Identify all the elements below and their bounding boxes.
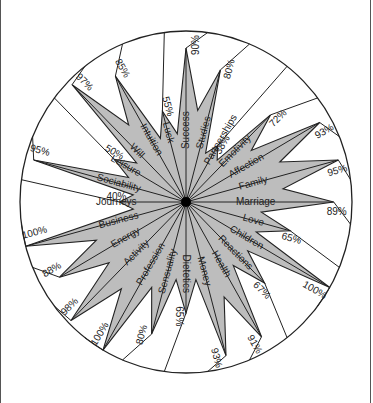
percent-label-success: 90% bbox=[190, 35, 201, 55]
percent-label-health: 91% bbox=[245, 333, 265, 356]
percent-label-dietetics: 65% bbox=[174, 306, 185, 326]
percent-label-sensuality: 80% bbox=[133, 323, 149, 345]
percent-label-journeys: 40% bbox=[106, 191, 126, 202]
chart-frame: SuccessStudiesPartnershipsEmotivityAffec… bbox=[0, 0, 373, 403]
percent-label-children: 100% bbox=[301, 278, 329, 300]
percent-label-money: 93% bbox=[209, 347, 225, 369]
percent-label-sociability: 95% bbox=[29, 142, 51, 158]
percent-label-marriage: 89% bbox=[327, 206, 347, 217]
percent-label-studies: 80% bbox=[221, 58, 237, 80]
category-label-marriage: Marriage bbox=[236, 196, 276, 207]
radial-chart: SuccessStudiesPartnershipsEmotivityAffec… bbox=[0, 0, 373, 403]
category-label-success: Success bbox=[180, 111, 191, 149]
category-label-dietetics: Dietetics bbox=[181, 255, 192, 293]
percent-label-business: 100% bbox=[21, 224, 49, 241]
center-dot-layer bbox=[181, 197, 191, 207]
percent-label-energy: 88% bbox=[40, 260, 63, 280]
center-dot bbox=[181, 197, 191, 207]
percent-label-love: 65% bbox=[280, 230, 302, 246]
percent-label-emotivity: 72% bbox=[267, 107, 289, 129]
percent-label-reactions: 67% bbox=[251, 279, 273, 301]
